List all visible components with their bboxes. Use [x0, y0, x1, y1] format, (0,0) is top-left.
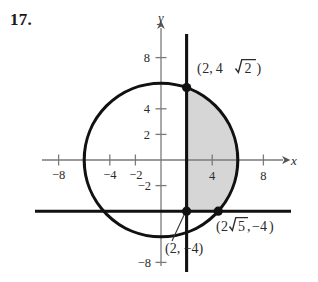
label-radicand: 2	[245, 61, 252, 76]
leader-line-lower-left-point	[172, 214, 185, 241]
label-close-paren: )	[257, 61, 262, 77]
point-lower-right-intersection	[214, 207, 223, 216]
label-lower-right-intersection: ( 2 5 , −4 )	[216, 218, 274, 235]
y-tick-label-4: 4	[144, 102, 151, 116]
svg-text:(2,4: (2,4	[197, 61, 223, 77]
x-axis-label: x	[290, 153, 297, 168]
y-tick-label-2: 2	[144, 128, 150, 142]
label-x-value: 2,	[202, 61, 213, 76]
graph-figure: −8 −4 −2 4 8 8 4 2 −2 −8 x y (	[0, 0, 318, 282]
label-close-paren-2: )	[269, 219, 274, 235]
label-upper-intersection: (2,4 2 )	[197, 60, 262, 77]
label-coefficient-2: 2	[221, 219, 228, 234]
label-comma-2: ,	[247, 219, 251, 234]
x-tick-label-4: 4	[209, 169, 216, 183]
x-tick-label--4: −4	[103, 168, 117, 182]
y-tick-label-8: 8	[144, 51, 150, 65]
label-lower-left-intersection: (2, −4)	[165, 241, 204, 257]
label-coefficient: 4	[216, 61, 223, 76]
x-tick-label--8: −8	[52, 168, 65, 182]
y-tick-label--8: −8	[138, 256, 151, 270]
label-y-value-2: −4	[252, 219, 267, 234]
figure-page: 17.	[0, 0, 318, 282]
y-tick-label--2: −2	[138, 179, 151, 193]
point-lower-left-intersection	[182, 207, 191, 216]
label-radicand-2: 5	[238, 219, 245, 234]
point-upper-intersection	[182, 83, 191, 92]
y-axis-label: y	[156, 10, 164, 25]
x-tick-label-8: 8	[260, 169, 266, 183]
